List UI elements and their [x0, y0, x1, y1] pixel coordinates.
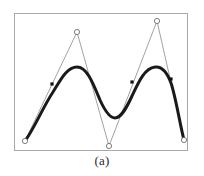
control-polygon-path: [25, 21, 184, 146]
knot-marker-1: [50, 82, 53, 85]
control-point-p3: [154, 18, 159, 23]
control-point-p1: [74, 29, 79, 34]
figure-caption: (a): [0, 152, 204, 170]
knot-marker-2: [130, 80, 133, 83]
plot-svg: [14, 13, 188, 151]
figure-container: (a): [0, 0, 204, 176]
control-point-p2: [106, 143, 111, 148]
control-point-p0: [22, 138, 27, 143]
control-point-p4: [181, 137, 186, 142]
control-polygon-lines: [25, 21, 184, 146]
curve-knot-markers: [50, 77, 172, 85]
knot-marker-3: [169, 77, 172, 80]
plot-frame: [14, 13, 188, 151]
